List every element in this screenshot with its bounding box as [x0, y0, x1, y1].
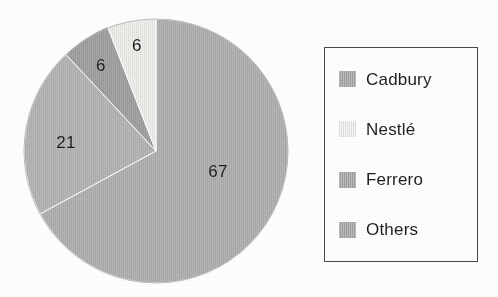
legend-item-ferrero[interactable]: Ferrero	[339, 167, 477, 193]
legend-swatch-nestle	[339, 121, 356, 137]
legend-label-ferrero: Ferrero	[366, 171, 423, 188]
legend-label-cadbury: Cadbury	[366, 71, 432, 88]
pie-plot-area: 67 21 6 6	[0, 0, 310, 297]
legend-label-others: Others	[366, 221, 418, 238]
legend-item-cadbury[interactable]: Cadbury	[339, 66, 477, 92]
legend-swatch-others	[339, 222, 356, 238]
chart-legend: Cadbury Nestlé Ferrero Others	[324, 47, 478, 262]
pie-value-label-nestle: 6	[132, 36, 142, 56]
pie-svg	[0, 0, 310, 297]
legend-item-nestle[interactable]: Nestlé	[339, 116, 477, 142]
pie-chart-figure: 67 21 6 6 Cadbury Nestlé Ferrero Others	[0, 0, 498, 297]
pie-value-label-ferrero: 6	[96, 56, 106, 76]
pie-value-label-cadbury: 67	[208, 162, 228, 182]
legend-item-list: Cadbury Nestlé Ferrero Others	[325, 48, 477, 261]
legend-label-nestle: Nestlé	[366, 121, 415, 138]
legend-swatch-ferrero	[339, 172, 356, 188]
pie-value-label-others: 21	[56, 133, 76, 153]
legend-item-others[interactable]: Others	[339, 217, 477, 243]
legend-swatch-cadbury	[339, 71, 356, 87]
